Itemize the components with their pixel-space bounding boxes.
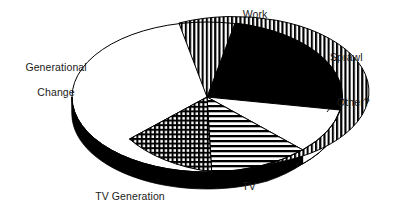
pie-label-tv: TV	[232, 180, 266, 193]
pie-label-tv-generation: TV Generation	[75, 190, 185, 203]
pie-label-generational-change-line2: Change	[37, 86, 74, 98]
pie-label-generational-change: Generational Change	[8, 48, 92, 111]
pie-label-generational-change-line1: Generational	[25, 61, 86, 73]
pie-chart-figure: Work Sprawl Other? TV TV Generation Gene…	[0, 0, 395, 215]
pie-slice-tv-generation[interactable]	[130, 97, 212, 172]
pie-label-sprawl: Sprawl	[330, 51, 392, 64]
pie-label-work: Work	[222, 8, 288, 21]
pie-label-other: Other?	[337, 96, 395, 109]
